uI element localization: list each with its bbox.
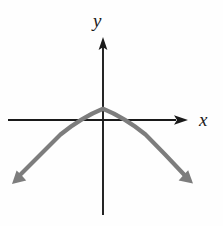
x-axis-label: x: [199, 110, 207, 129]
graph-figure: y x: [0, 0, 223, 226]
arrow-right-icon: [174, 115, 188, 124]
coordinate-plane-canvas: [0, 0, 223, 226]
y-axis-label: y: [93, 11, 101, 30]
